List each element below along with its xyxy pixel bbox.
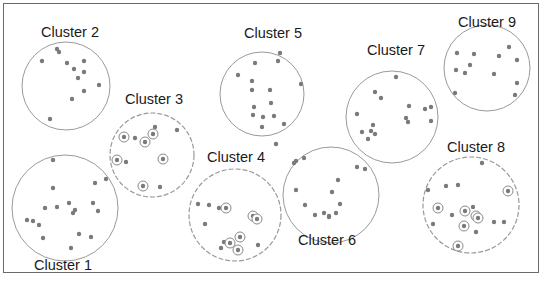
data-point — [77, 232, 81, 236]
data-point — [406, 120, 410, 124]
data-point — [37, 223, 41, 227]
data-point — [261, 115, 265, 119]
data-point — [274, 142, 278, 146]
data-point — [260, 125, 264, 129]
data-point — [236, 73, 240, 77]
data-point — [104, 177, 108, 181]
data-point — [124, 160, 128, 164]
highlighted-point — [224, 206, 228, 210]
data-point — [429, 119, 433, 123]
data-point — [73, 208, 77, 212]
data-point — [338, 202, 342, 206]
data-point — [366, 137, 370, 141]
data-point — [82, 89, 86, 93]
data-point — [302, 156, 306, 160]
data-point — [492, 72, 496, 76]
cluster-boundary — [12, 155, 118, 261]
data-point — [51, 158, 55, 162]
cluster-boundary — [346, 71, 438, 163]
data-point — [55, 205, 59, 209]
cluster-label: Cluster 6 — [298, 232, 356, 248]
data-point — [97, 83, 101, 87]
data-point — [278, 51, 282, 55]
data-point — [330, 190, 334, 194]
data-point — [373, 90, 377, 94]
cluster-boundary — [220, 52, 304, 136]
data-point — [404, 116, 408, 120]
data-point — [89, 235, 93, 239]
cluster-label: Cluster 8 — [447, 139, 505, 155]
highlighted-point — [236, 248, 240, 252]
data-point — [429, 105, 433, 109]
data-point — [492, 220, 496, 224]
data-point — [431, 222, 435, 226]
data-point — [371, 123, 375, 127]
data-point — [426, 188, 430, 192]
highlighted-point — [115, 158, 119, 162]
cluster-label: Cluster 1 — [34, 257, 92, 273]
data-point — [513, 93, 517, 97]
highlighted-point — [476, 216, 480, 220]
data-point — [69, 246, 73, 250]
cluster-6: Cluster 6 — [283, 147, 379, 248]
data-point — [454, 68, 458, 72]
data-point — [515, 81, 519, 85]
data-point — [70, 97, 74, 101]
data-point — [369, 129, 373, 133]
cluster-label: Cluster 5 — [244, 25, 302, 41]
data-point — [456, 183, 460, 187]
data-point — [250, 88, 254, 92]
data-point — [423, 107, 427, 111]
data-point — [455, 51, 459, 55]
cluster-label: Cluster 2 — [41, 24, 99, 40]
data-point — [472, 52, 476, 56]
data-point — [76, 76, 80, 80]
data-point — [31, 219, 35, 223]
data-point — [51, 186, 55, 190]
highlighted-point — [462, 224, 466, 228]
data-point — [363, 167, 367, 171]
highlighted-point — [456, 244, 460, 248]
data-point — [463, 71, 467, 75]
data-point — [474, 230, 478, 234]
data-point — [196, 202, 200, 206]
data-point — [276, 59, 280, 63]
data-point — [294, 159, 298, 163]
data-point — [82, 59, 86, 63]
data-point — [72, 67, 76, 71]
data-point — [40, 59, 44, 63]
data-point — [394, 75, 398, 79]
data-point — [360, 130, 364, 134]
cluster-7: Cluster 7 — [346, 42, 438, 163]
data-point — [57, 50, 61, 54]
cluster-2: Cluster 2 — [22, 24, 110, 130]
cluster-boundary — [22, 42, 110, 130]
data-point — [294, 188, 298, 192]
highlighted-point — [255, 217, 259, 221]
cluster-9: Cluster 9 — [444, 14, 530, 111]
data-point — [203, 222, 207, 226]
data-point — [251, 113, 255, 117]
data-point — [453, 91, 457, 95]
data-point — [471, 205, 475, 209]
data-point — [379, 96, 383, 100]
cluster-8: Cluster 8 — [423, 139, 519, 253]
data-point — [444, 184, 448, 188]
data-point — [41, 236, 45, 240]
data-point — [48, 117, 52, 121]
cluster-label: Cluster 7 — [367, 42, 425, 58]
data-point — [480, 161, 484, 165]
data-point — [407, 104, 411, 108]
highlighted-point — [151, 132, 155, 136]
data-point — [219, 246, 223, 250]
data-point — [497, 54, 501, 58]
data-point — [252, 105, 256, 109]
data-point — [336, 178, 340, 182]
data-point — [93, 181, 97, 185]
cluster-boundary — [110, 113, 194, 197]
data-point — [175, 128, 179, 132]
data-point — [268, 88, 272, 92]
data-point — [207, 203, 211, 207]
data-point — [25, 218, 29, 222]
data-point — [250, 79, 254, 83]
